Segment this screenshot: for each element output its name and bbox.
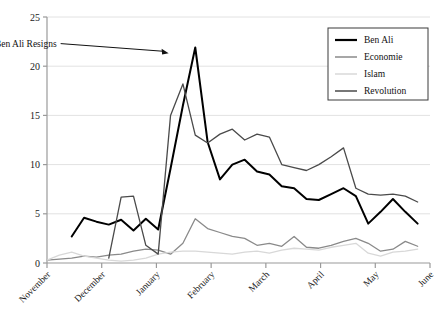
x-axis-tick-label: May <box>361 269 381 289</box>
legend-label-ben-ali: Ben Ali <box>364 35 394 45</box>
chart-canvas: 0510152025 NovemberDecemberJanuaryFebrua… <box>0 0 438 323</box>
y-axis-tick-label: 10 <box>30 159 40 170</box>
x-axis-tick-label: March <box>247 269 272 294</box>
line-chart-figure: 0510152025 NovemberDecemberJanuaryFebrua… <box>0 0 438 323</box>
x-axis-tick-label: January <box>134 269 162 297</box>
x-axis-tick-label: December <box>72 269 107 304</box>
x-axis-tick-label: June <box>416 269 435 288</box>
legend-label-revolution: Revolution <box>364 86 406 96</box>
legend-label-economie: Economie <box>364 52 403 62</box>
annotation-arrow-head <box>162 49 169 55</box>
y-axis-tick-label: 5 <box>35 208 40 219</box>
x-axis-tick-label: April <box>305 269 327 291</box>
x-axis-tick-label: November <box>17 269 53 305</box>
y-axis-tick-label: 0 <box>35 258 40 269</box>
annotation-ben-ali-resigns: Ben Ali Resigns <box>0 39 169 55</box>
annotation-arrow-line <box>61 44 164 52</box>
y-axis-tick-label: 20 <box>30 61 40 72</box>
y-axis: 0510152025 <box>30 12 47 269</box>
legend: Ben AliEconomieIslamRevolution <box>328 28 428 100</box>
y-axis-tick-label: 25 <box>30 12 40 23</box>
x-axis: NovemberDecemberJanuaryFebruaryMarchApri… <box>17 263 435 305</box>
x-axis-tick-label: February <box>185 269 216 300</box>
annotation-label: Ben Ali Resigns <box>0 39 57 49</box>
y-axis-tick-label: 15 <box>30 110 40 121</box>
series-line-islam <box>47 243 418 261</box>
series-line-revolution <box>109 84 418 258</box>
legend-label-islam: Islam <box>364 69 386 79</box>
